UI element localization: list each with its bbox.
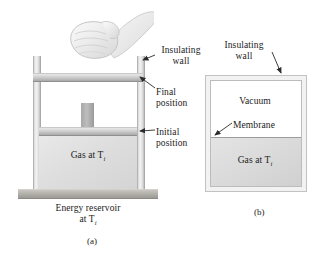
insulating-wall-label-a-line2: wall bbox=[150, 56, 212, 67]
gas-label-a: Gas at Ti bbox=[39, 150, 137, 164]
initial-position-label: Initial position bbox=[156, 127, 187, 149]
initial-position-label-line2: position bbox=[156, 138, 187, 149]
final-position-label-line2: position bbox=[156, 98, 187, 109]
insulating-wall-label-a: Insulating wall bbox=[150, 45, 212, 67]
insulating-wall-label-b: Insulating wall bbox=[213, 40, 275, 62]
energy-reservoir-label: Energy reservoir at Ti bbox=[28, 203, 148, 228]
thermodynamics-figure: Gas at Ti Energy reservoir at Ti Insulat… bbox=[0, 0, 324, 262]
gas-label-a-text: Gas at T bbox=[71, 150, 104, 160]
energy-reservoir-label-line2: at Ti bbox=[28, 214, 148, 228]
insulating-wall-label-b-line1: Insulating bbox=[213, 40, 275, 51]
gas-label-a-subscript: i bbox=[103, 150, 105, 160]
energy-reservoir-slab bbox=[18, 189, 158, 199]
panel-a-caption: (a) bbox=[87, 236, 97, 246]
final-position-label-line1: Final bbox=[156, 87, 187, 98]
insulating-wall-label-b-line2: wall bbox=[213, 51, 275, 62]
panel-b-caption: (b) bbox=[254, 207, 265, 217]
gas-label-b-subscript: i bbox=[270, 155, 272, 165]
energy-reservoir-label-line1: Energy reservoir bbox=[28, 203, 148, 214]
piston-initial-position bbox=[39, 127, 137, 136]
insulating-wall-label-a-line1: Insulating bbox=[150, 45, 212, 56]
gas-label-b-text: Gas at T bbox=[238, 155, 271, 165]
initial-position-label-line1: Initial bbox=[156, 127, 187, 138]
piston-final-position bbox=[33, 73, 143, 82]
vacuum-label: Vacuum bbox=[210, 96, 300, 107]
membrane-label: Membrane bbox=[233, 120, 275, 131]
gas-label-b: Gas at Ti bbox=[210, 155, 300, 169]
final-position-label: Final position bbox=[156, 87, 187, 109]
